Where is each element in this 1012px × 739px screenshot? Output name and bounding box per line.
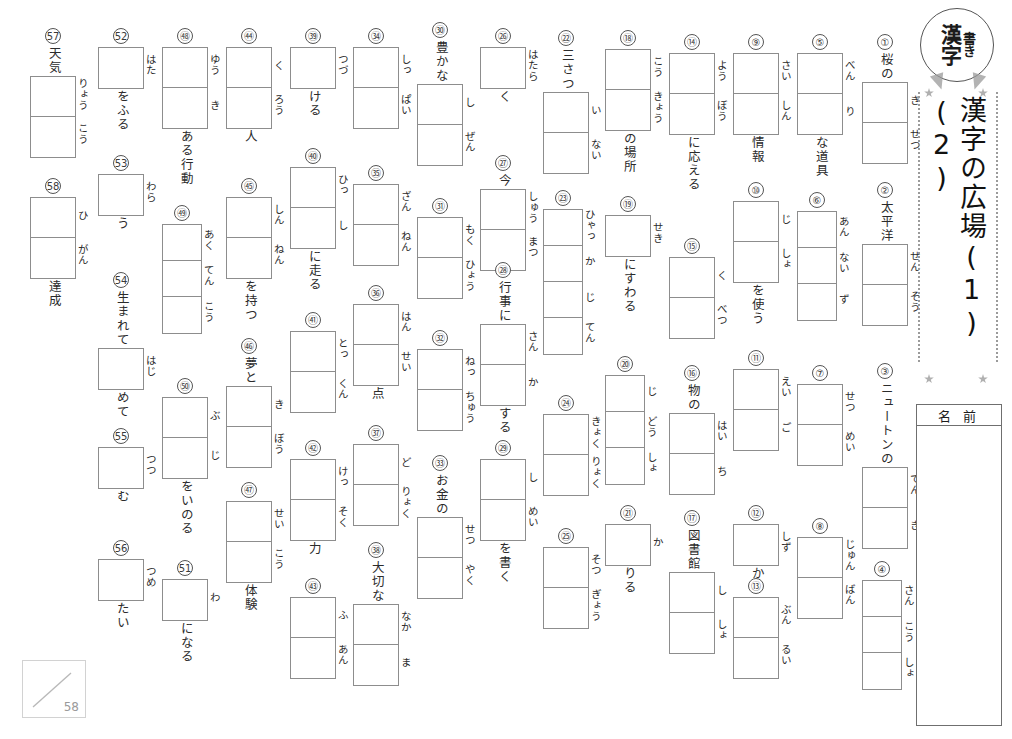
- answer-cell[interactable]: [227, 542, 271, 582]
- answer-boxes[interactable]: [669, 257, 715, 339]
- answer-cell[interactable]: [606, 376, 644, 412]
- answer-boxes[interactable]: [733, 369, 779, 451]
- answer-cell[interactable]: [291, 48, 335, 88]
- answer-cell[interactable]: [798, 54, 842, 94]
- answer-cell[interactable]: [227, 48, 271, 88]
- answer-cell[interactable]: [544, 282, 582, 318]
- answer-cell[interactable]: [544, 415, 588, 455]
- answer-boxes[interactable]: [353, 604, 399, 686]
- answer-boxes[interactable]: [733, 597, 779, 679]
- answer-cell[interactable]: [354, 305, 398, 345]
- answer-cell[interactable]: [798, 94, 842, 134]
- answer-cell[interactable]: [418, 350, 462, 390]
- answer-boxes[interactable]: [226, 386, 272, 468]
- answer-cell[interactable]: [481, 500, 525, 540]
- answer-boxes[interactable]: [733, 201, 779, 283]
- name-field[interactable]: 名 前: [916, 404, 1002, 726]
- answer-cell[interactable]: [863, 581, 901, 617]
- answer-cell[interactable]: [354, 605, 398, 645]
- answer-cell[interactable]: [606, 50, 650, 90]
- answer-cell[interactable]: [606, 412, 644, 448]
- answer-boxes[interactable]: [733, 53, 779, 135]
- answer-boxes[interactable]: [30, 76, 76, 158]
- answer-cell[interactable]: [734, 94, 778, 134]
- answer-cell[interactable]: [227, 427, 271, 467]
- answer-cell[interactable]: [798, 425, 842, 465]
- answer-boxes[interactable]: [98, 47, 144, 89]
- answer-cell[interactable]: [291, 460, 335, 500]
- answer-cell[interactable]: [863, 83, 907, 123]
- answer-boxes[interactable]: [98, 174, 144, 216]
- answer-cell[interactable]: [163, 48, 207, 88]
- answer-boxes[interactable]: [353, 184, 399, 266]
- answer-cell[interactable]: [798, 578, 842, 618]
- answer-cell[interactable]: [670, 573, 714, 613]
- answer-boxes[interactable]: [30, 197, 76, 279]
- answer-cell[interactable]: [354, 645, 398, 685]
- answer-cell[interactable]: [670, 298, 714, 338]
- answer-cell[interactable]: [544, 588, 588, 628]
- answer-cell[interactable]: [544, 93, 588, 133]
- answer-cell[interactable]: [418, 85, 462, 125]
- answer-boxes[interactable]: [162, 579, 208, 621]
- answer-boxes[interactable]: [862, 467, 908, 549]
- answer-cell[interactable]: [606, 525, 650, 565]
- answer-cell[interactable]: [354, 345, 398, 385]
- answer-boxes[interactable]: [797, 537, 843, 619]
- answer-cell[interactable]: [863, 617, 901, 653]
- answer-cell[interactable]: [863, 123, 907, 163]
- answer-cell[interactable]: [227, 88, 271, 128]
- answer-boxes[interactable]: [480, 459, 526, 541]
- answer-cell[interactable]: [99, 48, 143, 88]
- answer-boxes[interactable]: [162, 47, 208, 129]
- answer-cell[interactable]: [354, 88, 398, 128]
- answer-cell[interactable]: [798, 385, 842, 425]
- answer-cell[interactable]: [734, 202, 778, 242]
- answer-cell[interactable]: [544, 318, 582, 354]
- answer-cell[interactable]: [606, 216, 650, 256]
- answer-boxes[interactable]: [417, 217, 463, 299]
- answer-cell[interactable]: [163, 580, 207, 620]
- answer-cell[interactable]: [291, 638, 335, 678]
- answer-cell[interactable]: [481, 460, 525, 500]
- answer-boxes[interactable]: [605, 524, 651, 566]
- answer-boxes[interactable]: [543, 547, 589, 629]
- answer-cell[interactable]: [291, 168, 335, 208]
- answer-cell[interactable]: [354, 48, 398, 88]
- answer-boxes[interactable]: [226, 501, 272, 583]
- answer-cell[interactable]: [163, 88, 207, 128]
- answer-cell[interactable]: [670, 454, 714, 494]
- answer-cell[interactable]: [163, 398, 207, 438]
- answer-cell[interactable]: [227, 198, 271, 238]
- answer-boxes[interactable]: [162, 224, 202, 334]
- answer-boxes[interactable]: [797, 53, 843, 135]
- answer-cell[interactable]: [31, 117, 75, 157]
- answer-cell[interactable]: [418, 218, 462, 258]
- answer-cell[interactable]: [544, 210, 582, 246]
- answer-boxes[interactable]: [417, 349, 463, 431]
- answer-cell[interactable]: [670, 94, 714, 134]
- answer-boxes[interactable]: [733, 524, 779, 566]
- answer-cell[interactable]: [418, 390, 462, 430]
- answer-boxes[interactable]: [98, 348, 144, 390]
- answer-boxes[interactable]: [98, 559, 144, 601]
- answer-cell[interactable]: [544, 133, 588, 173]
- answer-cell[interactable]: [670, 414, 714, 454]
- answer-boxes[interactable]: [480, 189, 526, 271]
- answer-boxes[interactable]: [290, 331, 336, 413]
- answer-boxes[interactable]: [862, 244, 908, 326]
- answer-boxes[interactable]: [605, 49, 651, 131]
- answer-boxes[interactable]: [417, 517, 463, 599]
- answer-cell[interactable]: [354, 225, 398, 265]
- answer-cell[interactable]: [798, 248, 836, 284]
- answer-boxes[interactable]: [98, 447, 144, 489]
- answer-cell[interactable]: [291, 500, 335, 540]
- answer-cell[interactable]: [863, 468, 907, 508]
- answer-cell[interactable]: [354, 445, 398, 485]
- answer-cell[interactable]: [354, 485, 398, 525]
- answer-cell[interactable]: [31, 238, 75, 278]
- answer-boxes[interactable]: [543, 92, 589, 174]
- answer-cell[interactable]: [481, 325, 525, 365]
- answer-boxes[interactable]: [543, 414, 589, 496]
- answer-cell[interactable]: [31, 198, 75, 238]
